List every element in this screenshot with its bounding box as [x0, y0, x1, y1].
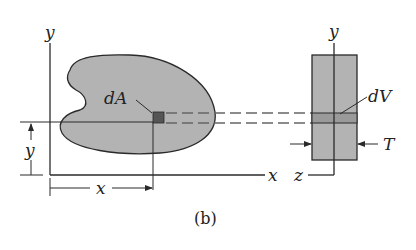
thickness-label: T — [383, 134, 396, 154]
z-axis-label: z — [293, 165, 304, 185]
right-y-axis-label: y — [328, 21, 339, 41]
y-dim-label: y — [24, 140, 35, 160]
area-shape — [60, 55, 215, 154]
dV-label: dV — [368, 86, 393, 106]
area-element-dA — [153, 112, 164, 123]
left-y-axis-label: y — [44, 22, 55, 42]
dA-label: dA — [104, 88, 127, 108]
left-x-axis-label: x — [268, 165, 278, 185]
figure-caption: (b) — [194, 209, 217, 228]
diagram-canvas: dA y x y x y z dV T (b) — [0, 0, 416, 250]
x-dim-label: x — [96, 178, 106, 198]
